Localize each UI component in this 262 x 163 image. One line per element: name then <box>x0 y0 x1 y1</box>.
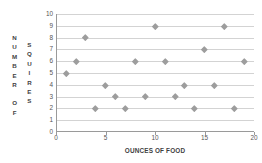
x-axis-tick-mark <box>155 132 156 135</box>
y-axis-title-letter-b: E <box>27 87 31 96</box>
y-axis-tick-label: 5 <box>49 70 53 76</box>
gridline <box>56 97 254 98</box>
gridline <box>56 49 254 50</box>
y-axis-line <box>56 14 57 132</box>
x-axis-tick-label: 20 <box>250 135 257 141</box>
data-point <box>63 70 69 76</box>
y-axis-tick-label: 1 <box>49 117 53 123</box>
y-axis-tick-label: 2 <box>49 105 53 111</box>
y-axis-title-letter-a: B <box>12 61 16 70</box>
x-axis-tick-mark <box>56 132 57 135</box>
y-axis-title-letter-a: O <box>12 98 17 107</box>
x-axis-tick-mark <box>254 132 255 135</box>
y-axis-title-letter-a: U <box>12 42 16 51</box>
data-point <box>211 82 217 88</box>
y-axis-title-letter-a: M <box>12 52 17 61</box>
data-point <box>152 23 158 29</box>
x-axis-tick-label: 5 <box>104 135 108 141</box>
x-axis-title: OUNCES OF FOOD <box>56 147 254 155</box>
x-axis-tick-label: 0 <box>54 135 58 141</box>
data-point <box>73 58 79 64</box>
y-axis-title-letter-b: S <box>27 96 31 105</box>
x-axis-tick-mark <box>106 132 107 135</box>
data-point <box>231 105 237 111</box>
y-axis-tick-label: 10 <box>46 11 53 17</box>
y-axis-tick-label: 4 <box>49 82 53 88</box>
data-point <box>172 93 178 99</box>
y-axis-tick-label: 8 <box>49 34 53 40</box>
data-point <box>142 93 148 99</box>
gridline <box>56 85 254 86</box>
plot-area: 012345678910 05101520 <box>56 14 254 132</box>
data-point <box>122 105 128 111</box>
data-point <box>162 58 168 64</box>
y-axis-title-letter-b: R <box>27 78 31 87</box>
y-axis-title-letter-b: S <box>27 40 31 49</box>
data-point <box>241 58 247 64</box>
x-axis-tick-mark <box>205 132 206 135</box>
y-axis-title-letter-b: U <box>27 59 31 68</box>
data-point <box>132 58 138 64</box>
y-axis-title-letter-a: R <box>12 80 16 89</box>
gridline <box>56 73 254 74</box>
y-axis-title-letter-a: E <box>13 71 17 80</box>
data-point <box>102 82 108 88</box>
y-axis-tick-label: 6 <box>49 58 53 64</box>
y-axis-title-letter-a: N <box>12 33 16 42</box>
data-point <box>82 34 88 40</box>
x-axis-tick-label: 10 <box>151 135 158 141</box>
data-point <box>112 93 118 99</box>
y-axis-title-column-secondary: SQUIRES <box>27 40 32 106</box>
gridline <box>56 120 254 121</box>
y-axis-tick-label: 3 <box>49 93 53 99</box>
y-axis-tick-label: 0 <box>49 129 53 135</box>
data-point <box>201 46 207 52</box>
gridline <box>56 61 254 62</box>
y-axis-tick-label: 9 <box>49 23 53 29</box>
data-point <box>92 105 98 111</box>
y-axis-tick-label: 7 <box>49 46 53 52</box>
x-axis-tick-label: 15 <box>201 135 208 141</box>
y-axis-title-letter-b: Q <box>27 49 32 58</box>
y-axis-title-column-primary: NUMBEROF <box>12 33 17 117</box>
data-point <box>191 105 197 111</box>
data-point <box>221 23 227 29</box>
gridline <box>56 14 254 15</box>
y-axis-title-letter-b: I <box>29 68 31 77</box>
scatter-chart: NUMBEROF SQUIRES 012345678910 05101520 O… <box>0 0 262 163</box>
y-axis-title-letter-a: F <box>13 108 17 117</box>
gridline <box>56 108 254 109</box>
data-point <box>181 82 187 88</box>
